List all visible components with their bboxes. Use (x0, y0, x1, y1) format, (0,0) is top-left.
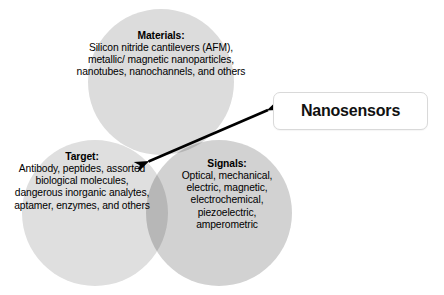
nanosensors-callout-box: Nanosensors (273, 92, 428, 130)
arrow-svg (0, 0, 444, 295)
nanosensors-label: Nanosensors (301, 102, 400, 120)
nanosensors-venn-figure: Materials: Silicon nitride cantilevers (… (0, 0, 444, 295)
nanosensors-connector-arrow (149, 110, 269, 162)
